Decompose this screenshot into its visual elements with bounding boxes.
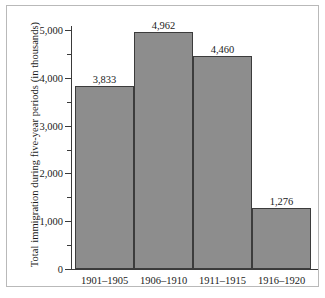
y-tick-mark bbox=[65, 126, 72, 127]
y-tick-label: 5,000 bbox=[39, 25, 63, 36]
x-tick-label-1916-1920: 1916–1920 bbox=[258, 275, 305, 286]
y-tick-label: 1,000 bbox=[39, 216, 63, 227]
bar-value-label: 4,460 bbox=[211, 44, 235, 55]
bar-1901-1905[interactable]: 3,833 bbox=[75, 86, 134, 269]
x-tick-label-1901-1905: 1901–1905 bbox=[81, 275, 128, 286]
bar-1906-1910[interactable]: 4,962 bbox=[134, 32, 193, 269]
y-axis-title: Total immigration during five-year perio… bbox=[29, 20, 40, 270]
y-tick-mark bbox=[67, 150, 72, 151]
bar-1916-1920[interactable]: 1,276 bbox=[252, 208, 311, 269]
y-tick-mark bbox=[65, 221, 72, 222]
bar-value-label: 4,962 bbox=[152, 20, 176, 31]
y-tick-label: 4,000 bbox=[39, 72, 63, 83]
y-tick-mark bbox=[67, 197, 72, 198]
bar-value-label: 1,276 bbox=[270, 196, 294, 207]
y-tick-label: 0 bbox=[58, 264, 63, 275]
bar-value-label: 3,833 bbox=[93, 74, 117, 85]
plot-area: 0 1,000 2,000 3,000 bbox=[71, 26, 318, 269]
y-tick-mark bbox=[65, 269, 72, 270]
y-tick-mark bbox=[67, 245, 72, 246]
y-tick-mark bbox=[65, 78, 72, 79]
y-tick-mark bbox=[65, 173, 72, 174]
x-axis-line bbox=[71, 269, 318, 270]
bar-chart-figure: Total immigration during five-year perio… bbox=[0, 0, 325, 298]
y-tick-mark bbox=[67, 54, 72, 55]
y-tick-label: 3,000 bbox=[39, 120, 63, 131]
y-tick-mark bbox=[65, 30, 72, 31]
y-tick-label: 2,000 bbox=[39, 168, 63, 179]
figure-frame: Total immigration during five-year perio… bbox=[6, 5, 319, 287]
y-axis-line bbox=[71, 26, 72, 269]
y-tick-mark bbox=[67, 102, 72, 103]
x-tick-label-1906-1910: 1906–1910 bbox=[140, 275, 187, 286]
x-tick-label-1911-1915: 1911–1915 bbox=[199, 275, 246, 286]
bar-1911-1915[interactable]: 4,460 bbox=[193, 56, 252, 269]
